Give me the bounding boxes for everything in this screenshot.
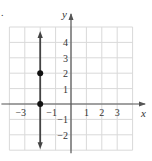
coordinate-plane: −3−11234321−1−2 x y .: [0, 0, 152, 161]
y-tick-label: 2: [63, 68, 68, 79]
y-tick-label: 4: [63, 37, 68, 48]
x-tick-label: 1: [84, 107, 89, 118]
x-tick-label: 2: [99, 107, 104, 118]
y-tick-label: 1: [63, 84, 68, 95]
y-axis-arrow-icon: [69, 13, 74, 20]
arrow-down-icon: [38, 142, 43, 149]
y-tick-label: −2: [57, 130, 68, 141]
x-tick-label: 3: [115, 107, 120, 118]
y-tick-label: 3: [63, 53, 68, 64]
corner-mark: .: [1, 7, 4, 18]
arrow-up-icon: [38, 31, 43, 38]
x-tick-label: −3: [15, 107, 26, 118]
data-series: [38, 31, 43, 149]
data-point: [37, 101, 43, 107]
data-point: [37, 70, 43, 76]
tick-labels: −3−11234321−1−2: [15, 37, 119, 140]
x-tick-label: −1: [46, 107, 57, 118]
y-tick-label: −1: [57, 114, 68, 125]
x-axis-arrow-icon: [139, 102, 146, 107]
x-axis-label: x: [140, 107, 146, 119]
axes: [1, 13, 146, 153]
y-axis-label: y: [61, 8, 67, 20]
